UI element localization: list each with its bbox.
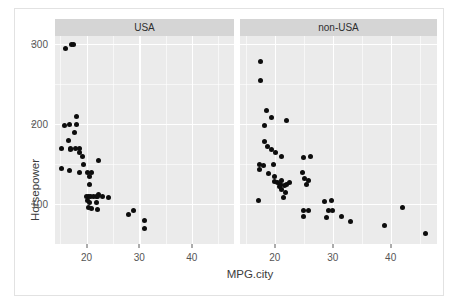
data-point xyxy=(301,214,306,219)
facet-strip-label: USA xyxy=(134,22,155,33)
x-tick-label: 20 xyxy=(269,252,280,263)
data-point xyxy=(81,162,86,167)
data-point xyxy=(284,118,289,123)
data-point xyxy=(67,122,72,127)
data-point xyxy=(269,115,274,120)
data-point xyxy=(89,206,94,211)
data-point xyxy=(266,171,271,176)
data-point xyxy=(95,207,100,212)
data-point xyxy=(96,158,101,163)
data-point xyxy=(67,168,72,173)
data-point xyxy=(142,218,147,223)
data-point xyxy=(258,78,263,83)
gridline-vertical-minor xyxy=(60,36,61,244)
data-point xyxy=(72,130,77,135)
data-point xyxy=(273,150,278,155)
data-point xyxy=(68,147,73,152)
gridline-vertical-major xyxy=(192,36,193,244)
data-point xyxy=(330,208,335,213)
facet-panel-usa: USA xyxy=(55,19,234,244)
ggplot-scatter-chart: Horsepower MPG.city 100200300 2030402030… xyxy=(0,0,455,304)
x-tick-mark xyxy=(191,244,192,248)
data-point xyxy=(262,123,267,128)
facet-strip-usa: USA xyxy=(55,19,234,36)
data-point xyxy=(304,182,309,187)
data-point xyxy=(324,215,329,220)
gridline-vertical-minor xyxy=(246,36,247,244)
data-point xyxy=(80,154,85,159)
data-point xyxy=(300,170,305,175)
gridline-horizontal-major xyxy=(240,124,437,125)
data-point xyxy=(74,122,79,127)
data-point xyxy=(126,212,131,217)
data-point xyxy=(77,170,82,175)
data-point xyxy=(423,231,428,236)
data-point xyxy=(59,166,64,171)
x-tick-mark xyxy=(139,244,140,248)
plot-area-non-usa xyxy=(240,36,437,244)
data-point xyxy=(306,208,311,213)
data-point xyxy=(339,214,344,219)
x-tick-label: 40 xyxy=(385,252,396,263)
y-tick-mark xyxy=(31,44,35,45)
data-point xyxy=(66,138,71,143)
data-point xyxy=(100,194,105,199)
gridline-vertical-minor xyxy=(420,36,421,244)
gridline-horizontal-minor xyxy=(55,44,234,45)
data-point xyxy=(59,146,64,151)
x-tick-label: 20 xyxy=(81,252,92,263)
gridline-vertical-major xyxy=(391,36,392,244)
data-point xyxy=(256,198,261,203)
data-point xyxy=(348,219,353,224)
data-point xyxy=(271,162,276,167)
x-axis-title: MPG.city xyxy=(55,268,445,280)
data-point xyxy=(287,180,292,185)
data-point xyxy=(258,59,263,64)
x-tick-mark xyxy=(332,244,333,248)
data-point xyxy=(142,226,147,231)
x-tick-mark xyxy=(86,244,87,248)
gridline-vertical-major xyxy=(139,36,140,244)
data-point xyxy=(63,46,68,51)
data-point xyxy=(308,154,313,159)
facet-strip-non-usa: non-USA xyxy=(240,19,437,36)
data-point xyxy=(74,114,79,119)
data-point xyxy=(382,223,387,228)
data-point xyxy=(400,205,405,210)
facet-strip-label: non-USA xyxy=(318,22,359,33)
plot-area-usa xyxy=(55,36,234,244)
data-point xyxy=(279,154,284,159)
y-tick-mark xyxy=(31,204,35,205)
gridline-vertical-minor xyxy=(218,36,219,244)
data-point xyxy=(301,155,306,160)
gridline-vertical-minor xyxy=(362,36,363,244)
gridline-vertical-minor xyxy=(113,36,114,244)
data-point xyxy=(281,195,286,200)
x-tick-label: 30 xyxy=(327,252,338,263)
x-tick-mark xyxy=(274,244,275,248)
data-point xyxy=(94,200,99,205)
gridline-vertical-major xyxy=(87,36,88,244)
data-point xyxy=(322,199,327,204)
data-point xyxy=(131,208,136,213)
facet-panel-non-usa: non-USA xyxy=(240,19,437,244)
gridline-horizontal-minor xyxy=(240,44,437,45)
data-point xyxy=(106,195,111,200)
gridline-horizontal-minor xyxy=(240,84,437,85)
data-point xyxy=(62,123,67,128)
data-point xyxy=(87,182,92,187)
x-tick-mark xyxy=(390,244,391,248)
data-point xyxy=(87,174,92,179)
x-tick-label: 40 xyxy=(186,252,197,263)
gridline-horizontal-minor xyxy=(240,164,437,165)
data-point xyxy=(329,198,334,203)
gridline-vertical-minor xyxy=(166,36,167,244)
gridline-horizontal-major xyxy=(55,124,234,125)
gridline-horizontal-major xyxy=(55,204,234,205)
y-tick-mark xyxy=(31,124,35,125)
gridline-horizontal-minor xyxy=(55,84,234,85)
data-point xyxy=(264,108,269,113)
gridline-horizontal-major xyxy=(240,204,437,205)
data-point xyxy=(71,42,76,47)
x-tick-label: 30 xyxy=(134,252,145,263)
